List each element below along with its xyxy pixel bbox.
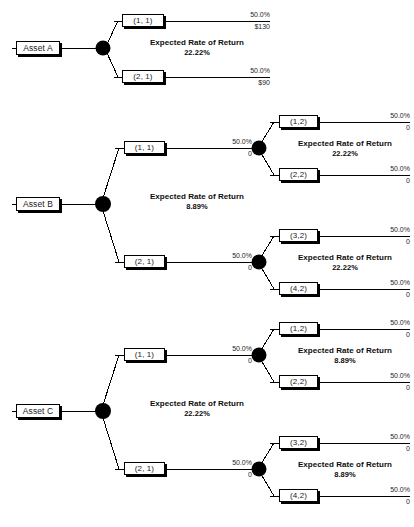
asset-b-sub-2-up xyxy=(261,236,274,257)
branch-label-b-2-1: (2, 1) xyxy=(135,258,154,266)
chance-node-asset-b-1 xyxy=(252,141,267,156)
chance-node-asset-b-2 xyxy=(252,255,267,270)
terminal-payoff-c-1: 0 xyxy=(358,331,410,339)
err-value-b-sub-2: 22.22% xyxy=(276,263,414,273)
asset-a-label-box[interactable]: Asset A xyxy=(16,41,60,55)
branch-label-b-2-2: (2,2) xyxy=(290,171,307,179)
branch-prob-c-2: 50.0% xyxy=(200,459,252,467)
branch-label-c-2-1: (2, 1) xyxy=(135,465,154,473)
terminal-prob-a-1: 50.0% xyxy=(218,11,270,19)
decision-tree-diagram: Asset A (1, 1) (2, 1) Expected Rate of R… xyxy=(0,0,414,527)
branch-box-c-1-2[interactable]: (1,2) xyxy=(279,322,318,335)
terminal-prob-c-2: 50.0% xyxy=(358,372,410,380)
branch-label-a-2-1: (2, 1) xyxy=(133,73,152,81)
branch-label-c-4-2: (4,2) xyxy=(290,492,307,500)
terminal-prob-b-3: 50.0% xyxy=(358,226,410,234)
branch-box-c-4-2[interactable]: (4,2) xyxy=(279,489,318,502)
branch-label-b-1-1: (1, 1) xyxy=(135,144,154,152)
asset-b-sub-1-dn xyxy=(261,153,274,175)
branch-box-a-2-1[interactable]: (2, 1) xyxy=(122,70,164,83)
branch-box-b-2-2[interactable]: (2,2) xyxy=(279,168,318,181)
branch-payoff-b-2: 0 xyxy=(200,264,252,272)
terminal-payoff-a-2: $90 xyxy=(218,79,270,87)
terminal-payoff-b-4: 0 xyxy=(358,291,410,299)
terminal-prob-b-4: 50.0% xyxy=(358,279,410,287)
branch-label-a-1-1: (1, 1) xyxy=(133,17,152,25)
terminal-prob-b-2: 50.0% xyxy=(358,165,410,173)
terminal-payoff-a-1: $130 xyxy=(218,23,270,31)
branch-box-c-2-1[interactable]: (2, 1) xyxy=(124,462,165,475)
branch-box-b-3-2[interactable]: (3,2) xyxy=(279,229,318,242)
branch-prob-c-1: 50.0% xyxy=(200,345,252,353)
terminal-payoff-b-3: 0 xyxy=(358,238,410,246)
branch-payoff-c-2: 0 xyxy=(200,471,252,479)
err-value-b-sub-1: 22.22% xyxy=(276,149,414,159)
err-value-asset-b: 8.89% xyxy=(125,202,269,212)
asset-c-branch-2 xyxy=(103,418,119,469)
asset-b-branch-1 xyxy=(103,148,119,198)
branch-box-b-1-1[interactable]: (1, 1) xyxy=(124,141,165,154)
err-block-asset-c: Expected Rate of Return 22.22% xyxy=(125,399,269,419)
terminal-payoff-c-3: 0 xyxy=(358,445,410,453)
branch-box-b-1-2[interactable]: (1,2) xyxy=(279,115,318,128)
branch-prob-b-2: 50.0% xyxy=(200,252,252,260)
chance-node-asset-c-1 xyxy=(252,348,267,363)
branch-payoff-c-1: 0 xyxy=(200,357,252,365)
asset-c-label-box[interactable]: Asset C xyxy=(16,404,60,418)
asset-b-sub-2-dn xyxy=(261,267,274,289)
asset-c-branch-1 xyxy=(103,355,119,405)
err-value-asset-c: 22.22% xyxy=(125,409,269,419)
terminal-prob-c-4: 50.0% xyxy=(358,486,410,494)
err-block-asset-a: Expected Rate of Return 22.22% xyxy=(125,38,269,58)
asset-c-sub-2-dn xyxy=(261,474,274,496)
branch-label-c-2-2: (2,2) xyxy=(290,378,307,386)
terminal-payoff-b-1: 0 xyxy=(358,124,410,132)
err-title-asset-a: Expected Rate of Return xyxy=(125,38,269,48)
branch-box-b-2-1[interactable]: (2, 1) xyxy=(124,255,165,268)
chance-node-asset-a-root xyxy=(96,41,111,56)
err-value-c-sub-1: 8.89% xyxy=(276,356,414,366)
branch-box-c-3-2[interactable]: (3,2) xyxy=(279,436,318,449)
chance-node-asset-c-root xyxy=(95,403,111,419)
branch-label-c-3-2: (3,2) xyxy=(290,439,307,447)
err-block-b-sub-1: Expected Rate of Return 22.22% xyxy=(276,139,414,159)
asset-c-sub-1-up xyxy=(261,329,274,350)
err-title-asset-c: Expected Rate of Return xyxy=(125,399,269,409)
asset-b-label: Asset B xyxy=(23,200,53,209)
terminal-payoff-c-2: 0 xyxy=(358,384,410,392)
asset-a-branch-2 xyxy=(107,53,118,77)
err-title-b-sub-2: Expected Rate of Return xyxy=(276,253,414,263)
err-title-asset-b: Expected Rate of Return xyxy=(125,192,269,202)
chance-node-asset-c-2 xyxy=(252,462,267,477)
branch-box-c-2-2[interactable]: (2,2) xyxy=(279,375,318,388)
branch-box-c-1-1[interactable]: (1, 1) xyxy=(124,348,165,361)
err-block-asset-b: Expected Rate of Return 8.89% xyxy=(125,192,269,212)
branch-box-b-4-2[interactable]: (4,2) xyxy=(279,282,318,295)
asset-c-sub-2-up xyxy=(261,443,274,464)
terminal-prob-c-1: 50.0% xyxy=(358,319,410,327)
terminal-payoff-b-2: 0 xyxy=(358,177,410,185)
terminal-prob-a-2: 50.0% xyxy=(218,67,270,75)
branch-label-c-1-1: (1, 1) xyxy=(135,351,154,359)
asset-a-branch-1 xyxy=(107,21,118,44)
branch-box-a-1-1[interactable]: (1, 1) xyxy=(122,14,164,27)
asset-a-label: Asset A xyxy=(23,44,53,53)
err-title-b-sub-1: Expected Rate of Return xyxy=(276,139,414,149)
terminal-prob-c-3: 50.0% xyxy=(358,433,410,441)
err-block-c-sub-2: Expected Rate of Return 8.89% xyxy=(276,460,414,480)
branch-prob-b-1: 50.0% xyxy=(200,138,252,146)
branch-label-b-3-2: (3,2) xyxy=(290,232,307,240)
chance-node-asset-b-root xyxy=(95,196,111,212)
err-value-asset-a: 22.22% xyxy=(125,48,269,58)
err-block-b-sub-2: Expected Rate of Return 22.22% xyxy=(276,253,414,273)
asset-b-label-box[interactable]: Asset B xyxy=(16,197,60,211)
branch-label-b-1-2: (1,2) xyxy=(290,118,307,126)
asset-b-branch-2 xyxy=(103,211,119,262)
err-block-c-sub-1: Expected Rate of Return 8.89% xyxy=(276,346,414,366)
branch-label-b-4-2: (4,2) xyxy=(290,285,307,293)
err-value-c-sub-2: 8.89% xyxy=(276,470,414,480)
asset-b-sub-1-up xyxy=(261,122,274,143)
branch-label-c-1-2: (1,2) xyxy=(290,325,307,333)
err-title-c-sub-1: Expected Rate of Return xyxy=(276,346,414,356)
terminal-payoff-c-4: 0 xyxy=(358,498,410,506)
